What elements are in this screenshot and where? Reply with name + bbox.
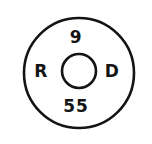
right-label: D: [101, 63, 123, 80]
bottom-label: 55: [0, 98, 152, 115]
top-label: 9: [0, 29, 152, 46]
circle-symbol-figure: 9 55 R D: [0, 0, 152, 144]
concentric-circles-graphic: [0, 0, 152, 144]
left-label: R: [30, 63, 52, 80]
inner-circle: [62, 54, 96, 88]
